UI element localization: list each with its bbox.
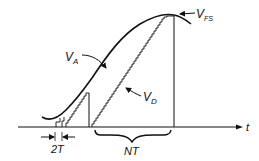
t-axis-label: t	[246, 121, 250, 133]
axis-arrow-icon	[236, 125, 243, 130]
staircase-first	[56, 93, 89, 127]
va-label: VA	[65, 50, 78, 66]
analog-curve-va	[42, 14, 191, 119]
diagram-svg: t VA VD VFS 2T NT	[0, 0, 259, 161]
va-leader-arrow-icon	[82, 55, 106, 68]
staircase-vd	[92, 16, 174, 127]
diagram-canvas: t VA VD VFS 2T NT	[0, 0, 259, 161]
two-t-label: 2T	[50, 143, 65, 155]
two-t-dimension	[41, 132, 75, 141]
nt-brace	[95, 130, 171, 142]
vfs-leader-arrow-icon	[180, 13, 195, 14]
nt-label: NT	[124, 145, 140, 157]
vfs-label: VFS	[196, 7, 213, 22]
vd-leader-arrow-icon	[126, 88, 141, 96]
vd-label: VD	[143, 90, 157, 106]
time-axis	[18, 125, 243, 130]
